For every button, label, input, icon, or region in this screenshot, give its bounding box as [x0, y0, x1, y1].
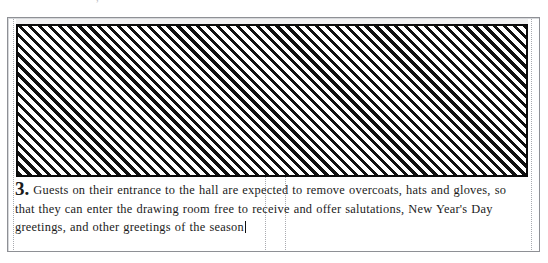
clipped-top-text-line: ·· · · · · · · , ··	[0, 0, 548, 5]
rule-paragraph[interactable]: 3.Guests on their entrance to the hall a…	[15, 181, 517, 237]
text-caret	[245, 221, 246, 233]
clipped-top-text: ·· · · · · · · , ··	[0, 0, 112, 3]
rule-text: Guests on their entrance to the hall are…	[15, 183, 506, 234]
image-placeholder-hatched-block[interactable]	[16, 24, 528, 177]
rule-number: 3.	[15, 178, 29, 199]
margin-guide-right	[531, 19, 532, 250]
document-page: ·· · · · · · · , ·· 3.Guests on their en…	[0, 0, 548, 263]
margin-guide-left	[13, 19, 14, 250]
